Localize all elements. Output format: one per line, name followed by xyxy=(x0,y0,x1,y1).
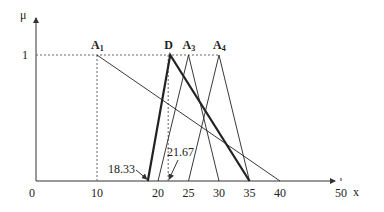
annotation-18-33: 18.33 xyxy=(108,162,135,176)
x-tick-label: 40 xyxy=(274,186,286,200)
x-axis-label: x xyxy=(353,185,359,199)
annotation-21-67: 21.67 xyxy=(167,145,194,159)
annotation-arrow xyxy=(136,170,147,179)
x-tick-label: 25 xyxy=(183,186,195,200)
x-tick-label: 50 xyxy=(335,186,347,200)
peak-label-a4: A4 xyxy=(213,38,226,53)
y-axis-label: μ xyxy=(20,8,26,22)
series-a4 xyxy=(189,55,250,181)
x-tick-label: 35 xyxy=(244,186,256,200)
x-tick-label: 30 xyxy=(213,186,225,200)
x-tick-label: 0 xyxy=(29,186,35,200)
peak-label-a3: A3 xyxy=(183,38,196,53)
x-tick-label: 20 xyxy=(152,186,164,200)
peak-label-a1: A1 xyxy=(91,38,104,53)
x-tick-label: 10 xyxy=(91,186,103,200)
y-tick-label: 1 xyxy=(22,48,28,62)
annotation-arrow xyxy=(169,160,178,179)
peak-label-d: D xyxy=(164,38,173,52)
fuzzy-membership-chart: μx1010202530354050A1DA3A418.3321.67 xyxy=(0,0,384,212)
